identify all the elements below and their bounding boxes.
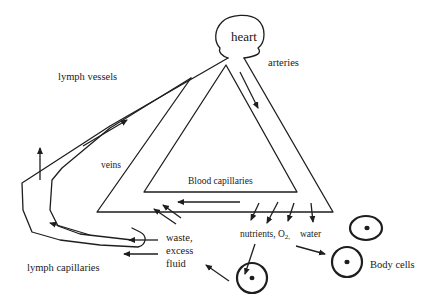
body-cells-label: Body cells <box>370 259 415 270</box>
lymph-vessels-label: lymph vessels <box>58 71 117 82</box>
lymph-vessel-tube <box>22 58 228 247</box>
body-cell-lower-right <box>332 247 362 277</box>
body-cell-bottom <box>237 263 267 293</box>
lymph-capillaries-label: lymph capillaries <box>27 262 100 273</box>
waste-label-line3: fluid <box>166 258 187 269</box>
circulatory-lymphatic-diagram: heart <box>0 0 436 298</box>
blood-capillaries-label: Blood capillaries <box>188 176 253 186</box>
nutrients-label: nutrients, O2, <box>240 229 290 241</box>
cell-to-waste-arrow <box>206 265 229 281</box>
veins-label: veins <box>101 160 121 170</box>
heart-label: heart <box>231 29 257 44</box>
waste-label-line1: waste, <box>166 232 193 243</box>
nutrient-to-body-cells-arrow <box>296 246 325 254</box>
lymph-vessel-flow-arrow <box>83 120 127 146</box>
blood-capillaries-triangle <box>144 65 297 192</box>
water-label: water <box>300 229 322 239</box>
arteries-label: arteries <box>268 57 299 68</box>
body-cell-upper-right <box>350 216 382 240</box>
nutrient-to-cell-arrow <box>245 244 255 274</box>
lymph-capillary-flow-arrow <box>50 223 90 235</box>
waste-label-line2: excess <box>166 245 193 256</box>
